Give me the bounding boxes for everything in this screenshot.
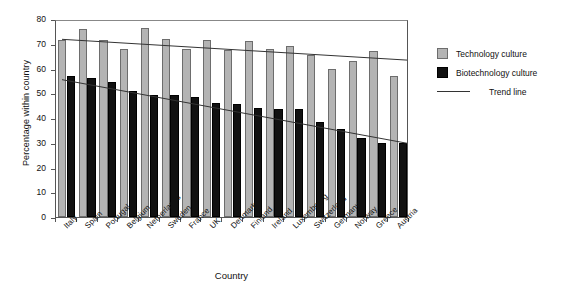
legend-line-icon — [437, 91, 470, 92]
y-axis-tick-mark — [51, 45, 55, 46]
bar-biotechnology-culture — [129, 91, 137, 217]
y-axis-tick-label: 30 — [37, 138, 46, 148]
legend-label: Biotechnology culture — [456, 68, 537, 78]
legend-item: Biotechnology culture — [437, 63, 565, 82]
bar-group — [388, 21, 409, 217]
bar-technology-culture — [58, 40, 66, 217]
bar-group — [77, 21, 98, 217]
bar-biotechnology-culture — [87, 78, 95, 217]
bar-group — [264, 21, 285, 217]
y-axis-tick-label: 10 — [37, 187, 46, 197]
bar-technology-culture — [182, 49, 190, 217]
bar-technology-culture — [203, 40, 211, 217]
bar-biotechnology-culture — [150, 95, 158, 218]
y-axis-tick-mark — [51, 119, 55, 120]
bar-biotechnology-culture — [191, 97, 199, 217]
legend-label: Technology culture — [456, 49, 527, 59]
bar-technology-culture — [224, 50, 232, 217]
y-axis-tick-label: 0 — [41, 212, 46, 222]
bar-biotechnology-culture — [67, 76, 75, 217]
legend-line-glyph — [437, 91, 470, 92]
legend-label: Trend line — [489, 87, 526, 97]
bar-group — [98, 21, 119, 217]
bar-biotechnology-culture — [378, 143, 386, 217]
bar-group — [160, 21, 181, 217]
bar-group — [367, 21, 388, 217]
y-axis-tick-label: 60 — [37, 64, 46, 74]
bar-group — [243, 21, 264, 217]
y-axis-tick-mark — [51, 70, 55, 71]
bar-biotechnology-culture — [233, 104, 241, 217]
bar-group — [326, 21, 347, 217]
y-axis-tick-mark — [51, 20, 55, 21]
bar-biotechnology-culture — [108, 82, 116, 217]
legend-item: Technology culture — [437, 44, 565, 63]
bar-biotechnology-culture — [212, 103, 220, 217]
y-axis-tick-label: 40 — [37, 113, 46, 123]
bar-group — [284, 21, 305, 217]
y-axis-tick-label: 80 — [37, 14, 46, 24]
y-axis-tick-mark — [51, 144, 55, 145]
bar-group — [118, 21, 139, 217]
bar-biotechnology-culture — [274, 109, 282, 217]
bar-group — [222, 21, 243, 217]
bar-biotechnology-culture — [399, 143, 407, 217]
bar-technology-culture — [307, 55, 315, 217]
y-axis-tick-mark — [51, 169, 55, 170]
plot-area — [56, 21, 407, 217]
bar-technology-culture — [79, 29, 87, 217]
x-axis-label-uk: UK — [208, 216, 222, 230]
bar-group — [347, 21, 368, 217]
legend-swatch-icon — [437, 48, 448, 59]
bar-technology-culture — [266, 49, 274, 217]
x-axis-tick-mark — [55, 218, 56, 222]
bar-group — [139, 21, 160, 217]
bar-biotechnology-culture — [295, 109, 303, 217]
plot-frame — [55, 20, 408, 218]
bar-technology-culture — [141, 28, 149, 217]
y-axis-tick-label: 20 — [37, 163, 46, 173]
bar-technology-culture — [245, 41, 253, 217]
bar-technology-culture — [99, 40, 107, 217]
bar-group — [181, 21, 202, 217]
bar-technology-culture — [286, 46, 294, 217]
y-axis-tick-mark — [51, 193, 55, 194]
y-axis-tick-label: 50 — [37, 88, 46, 98]
bar-biotechnology-culture — [254, 108, 262, 217]
bar-technology-culture — [349, 61, 357, 217]
legend-swatch-icon — [437, 67, 448, 78]
chart-legend: Technology cultureBiotechnology cultureT… — [437, 44, 565, 101]
chart-root: Percentage within country 80706050403020… — [0, 0, 568, 295]
y-axis-title: Percentage within country — [21, 13, 31, 213]
bar-group — [305, 21, 326, 217]
bar-technology-culture — [369, 51, 377, 217]
bar-technology-culture — [328, 69, 336, 218]
bar-group — [201, 21, 222, 217]
y-axis-tick-mark — [51, 94, 55, 95]
bar-group — [56, 21, 77, 217]
bar-technology-culture — [390, 76, 398, 217]
bar-technology-culture — [162, 39, 170, 217]
x-axis-title: Country — [55, 270, 408, 281]
bar-technology-culture — [120, 49, 128, 217]
y-axis-tick-label: 70 — [37, 39, 46, 49]
legend-item: Trend line — [437, 82, 565, 101]
